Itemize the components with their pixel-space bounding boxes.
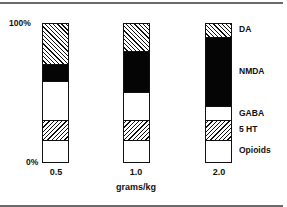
top-rule bbox=[0, 2, 283, 4]
segment-opioids bbox=[206, 141, 231, 162]
segment-gaba bbox=[124, 93, 149, 121]
bar-1-0 bbox=[123, 23, 150, 163]
segment-5ht bbox=[206, 121, 231, 142]
legend-gaba: GABA bbox=[239, 108, 264, 118]
segment-gaba bbox=[206, 107, 231, 121]
segment-opioids bbox=[124, 141, 149, 162]
legend-opioids: Opioids bbox=[239, 145, 271, 155]
y-tick-100: 100% bbox=[9, 18, 31, 28]
bar-0-5 bbox=[42, 23, 69, 163]
segment-5ht bbox=[43, 121, 68, 142]
segment-5ht bbox=[124, 121, 149, 142]
x-tick-0-5: 0.5 bbox=[41, 167, 71, 177]
segment-nmda bbox=[43, 65, 68, 82]
segment-da bbox=[206, 24, 231, 38]
x-axis-label: grams/kg bbox=[96, 182, 176, 192]
x-tick-1-0: 1.0 bbox=[121, 167, 151, 177]
segment-da bbox=[43, 24, 68, 65]
y-tick-0: 0% bbox=[26, 157, 38, 167]
segment-nmda bbox=[206, 38, 231, 107]
bar-2-0 bbox=[205, 23, 232, 163]
bottom-rule bbox=[0, 205, 283, 207]
segment-opioids bbox=[43, 141, 68, 162]
segment-nmda bbox=[124, 52, 149, 93]
legend-5ht: 5 HT bbox=[239, 124, 257, 134]
legend-da: DA bbox=[239, 24, 251, 34]
x-tick-2-0: 2.0 bbox=[204, 167, 234, 177]
segment-da bbox=[124, 24, 149, 52]
segment-gaba bbox=[43, 82, 68, 121]
legend-nmda: NMDA bbox=[239, 66, 265, 76]
